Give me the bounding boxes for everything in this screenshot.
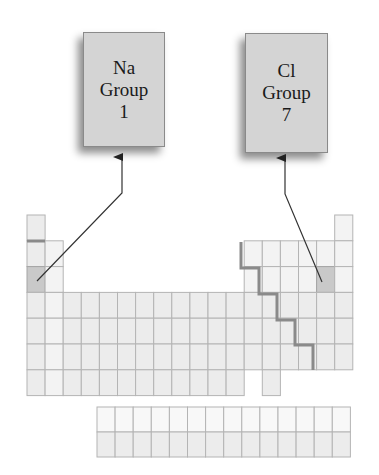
element-cell	[45, 318, 63, 344]
element-cell	[136, 292, 154, 318]
element-cell	[27, 267, 45, 293]
element-cell	[63, 318, 81, 344]
f-block-cell	[224, 432, 242, 457]
f-block-cell	[206, 432, 224, 457]
f-block-cell	[188, 407, 206, 432]
f-block-cell	[97, 432, 115, 457]
element-cell	[335, 344, 353, 370]
f-block-cell	[314, 432, 332, 457]
element-cell	[317, 267, 335, 293]
element-cell	[190, 344, 208, 370]
f-block-cell	[115, 432, 133, 457]
element-cell	[154, 344, 172, 370]
f-block-cell	[242, 432, 260, 457]
element-cell	[335, 292, 353, 318]
element-cell	[190, 318, 208, 344]
element-cell	[118, 318, 136, 344]
element-cell	[99, 370, 117, 396]
element-cell	[335, 267, 353, 293]
element-cell	[317, 318, 335, 344]
element-cell	[99, 292, 117, 318]
element-cell	[262, 344, 280, 370]
element-cell	[63, 344, 81, 370]
element-cell	[226, 292, 244, 318]
element-cell	[136, 318, 154, 344]
element-cell	[280, 292, 298, 318]
element-cell	[63, 370, 81, 396]
f-block-cell	[314, 407, 332, 432]
element-cell	[99, 318, 117, 344]
f-block-cell	[133, 432, 151, 457]
element-cell	[244, 344, 262, 370]
periodic-table-diagram	[0, 0, 379, 475]
element-cell	[280, 267, 298, 293]
element-cell	[226, 318, 244, 344]
f-block-cell	[332, 407, 350, 432]
element-cell	[27, 292, 45, 318]
element-cell	[299, 318, 317, 344]
element-cell	[208, 318, 226, 344]
periodic-table-f-block	[97, 407, 350, 457]
element-cell	[226, 344, 244, 370]
element-cell	[226, 370, 244, 396]
element-cell	[335, 318, 353, 344]
f-block-cell	[188, 432, 206, 457]
element-cell	[172, 370, 190, 396]
element-cell	[27, 370, 45, 396]
element-cell	[172, 344, 190, 370]
element-cell	[27, 344, 45, 370]
element-cell	[280, 344, 298, 370]
element-cell	[262, 241, 280, 267]
element-cell	[27, 318, 45, 344]
element-cell	[299, 267, 317, 293]
f-block-cell	[151, 407, 169, 432]
element-cell	[244, 318, 262, 344]
element-cell	[317, 241, 335, 267]
f-block-cell	[115, 407, 133, 432]
element-cell	[45, 344, 63, 370]
f-block-cell	[133, 407, 151, 432]
element-cell	[99, 344, 117, 370]
element-cell	[262, 267, 280, 293]
element-cell	[244, 241, 262, 267]
element-cell	[208, 370, 226, 396]
element-cell	[136, 370, 154, 396]
f-block-cell	[224, 407, 242, 432]
element-cell	[299, 292, 317, 318]
f-block-cell	[151, 432, 169, 457]
element-cell	[118, 344, 136, 370]
element-cell	[81, 292, 99, 318]
element-cell	[317, 344, 335, 370]
element-cell	[81, 344, 99, 370]
element-cell	[118, 292, 136, 318]
element-cell	[172, 292, 190, 318]
f-block-cell	[260, 432, 278, 457]
element-cell	[136, 344, 154, 370]
element-cell	[45, 370, 63, 396]
f-block-cell	[296, 432, 314, 457]
element-cell	[190, 370, 208, 396]
element-cell	[172, 318, 190, 344]
f-block-cell	[206, 407, 224, 432]
element-cell	[118, 370, 136, 396]
element-cell	[63, 292, 81, 318]
f-block-cell	[278, 432, 296, 457]
element-cell	[154, 370, 172, 396]
f-block-cell	[242, 407, 260, 432]
element-cell	[190, 292, 208, 318]
f-block-cell	[332, 432, 350, 457]
element-cell	[208, 344, 226, 370]
element-cell	[27, 215, 45, 241]
element-cell	[81, 370, 99, 396]
f-block-cell	[169, 407, 187, 432]
element-cell	[262, 318, 280, 344]
element-cell	[27, 241, 45, 267]
element-cell	[154, 318, 172, 344]
element-cell	[208, 292, 226, 318]
f-block-cell	[260, 407, 278, 432]
element-cell	[335, 241, 353, 267]
element-cell	[335, 215, 353, 241]
element-cell	[280, 241, 298, 267]
periodic-table-main-grid	[27, 215, 353, 396]
element-cell	[244, 292, 262, 318]
